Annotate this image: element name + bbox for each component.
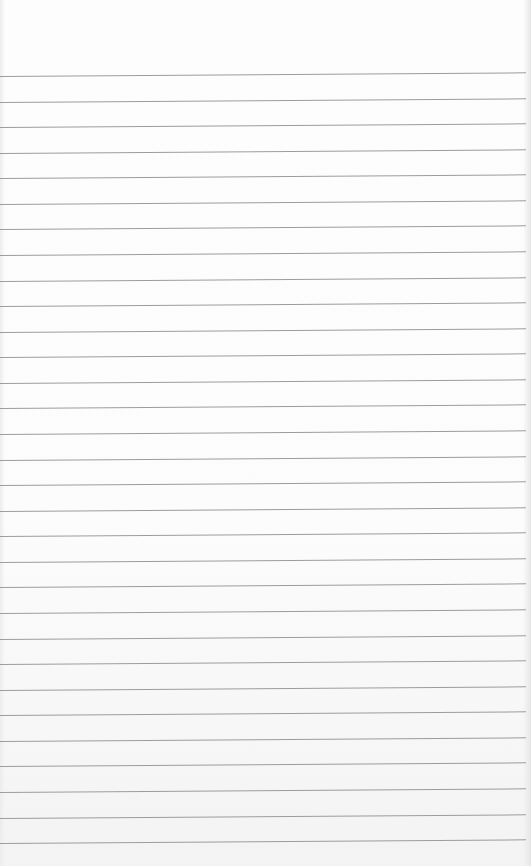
ruled-line <box>0 226 526 231</box>
ruled-line <box>0 72 526 77</box>
ruled-line <box>0 123 526 128</box>
ruled-line <box>0 737 526 742</box>
ruled-line <box>0 251 526 256</box>
ruled-line <box>0 302 526 307</box>
ruled-line <box>0 456 526 461</box>
ruled-line <box>0 584 526 589</box>
ruled-line <box>0 788 526 793</box>
ruled-line <box>0 763 526 768</box>
ruled-line <box>0 200 526 205</box>
paper-right-edge <box>523 0 531 866</box>
ruled-line <box>0 609 526 614</box>
ruled-line <box>0 533 526 538</box>
ruled-line <box>0 379 526 384</box>
ruled-line <box>0 328 526 333</box>
ruled-line <box>0 635 526 640</box>
ruled-line <box>0 98 526 103</box>
ruled-line <box>0 430 526 435</box>
ruled-line <box>0 149 526 154</box>
ruled-line <box>0 354 526 359</box>
ruled-line <box>0 686 526 691</box>
ruled-line <box>0 277 526 282</box>
ruled-line <box>0 814 526 819</box>
lined-paper <box>0 0 531 866</box>
ruled-line <box>0 405 526 410</box>
ruled-line <box>0 175 526 180</box>
ruled-line <box>0 712 526 717</box>
ruled-line <box>0 660 526 665</box>
ruled-line <box>0 481 526 486</box>
ruled-line <box>0 507 526 512</box>
ruled-line <box>0 839 526 844</box>
ruled-line <box>0 558 526 563</box>
